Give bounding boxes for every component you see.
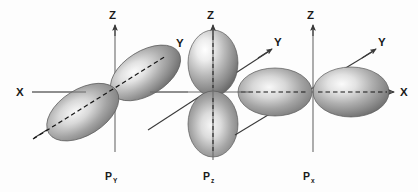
p-orbital-diagram: X X Z Y: [0, 0, 418, 192]
py-orbital-sublabel: Y: [113, 177, 118, 184]
px-orbital-caption: P x: [303, 170, 315, 184]
pz-z-axis-label: Z: [207, 9, 214, 21]
py-orbital-caption: P Y: [105, 170, 118, 184]
py-y-axis-label: Y: [176, 37, 184, 49]
panel-px: Y Z P x: [235, 9, 389, 184]
x-axis-label-right: X: [400, 86, 408, 98]
pz-y-axis-arrow: [258, 49, 272, 58]
x-axis-label-left: X: [16, 86, 24, 98]
px-y-axis-label: Y: [378, 36, 386, 48]
py-z-axis-label: Z: [109, 9, 116, 21]
panel-py: Z Y P Y: [33, 9, 190, 184]
px-z-axis-label: Z: [307, 9, 314, 21]
diagram-canvas: X X Z Y: [0, 0, 418, 192]
pz-y-axis-label: Y: [274, 36, 282, 48]
px-orbital-label: P: [303, 170, 310, 182]
pz-orbital-label: P: [203, 170, 210, 182]
px-y-axis-arrow: [362, 49, 376, 58]
pz-orbital-sublabel: z: [211, 177, 215, 184]
px-orbital-sublabel: x: [311, 177, 315, 184]
pz-orbital-caption: P z: [203, 170, 215, 184]
py-orbital-label: P: [105, 170, 112, 182]
px-z-axis: Z: [307, 9, 314, 152]
